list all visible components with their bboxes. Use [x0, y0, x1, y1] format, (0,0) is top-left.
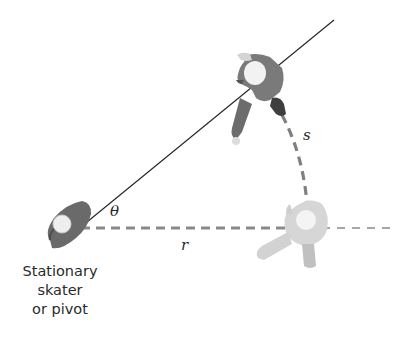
theta-label: θ	[110, 202, 119, 220]
arc-length-label: s	[303, 126, 311, 144]
moving-skater-end-figure	[257, 200, 328, 268]
pivot-caption-line-3: or pivot	[8, 300, 112, 319]
pivot-skater-figure	[48, 201, 91, 248]
pivot-caption: Stationary skater or pivot	[8, 262, 112, 319]
radius-label: r	[181, 236, 188, 254]
pivot-caption-line-2: skater	[8, 281, 112, 300]
pivot-caption-line-1: Stationary	[8, 262, 112, 281]
moving-skater-start-figure	[232, 53, 287, 145]
radial-line-solid	[87, 20, 334, 222]
